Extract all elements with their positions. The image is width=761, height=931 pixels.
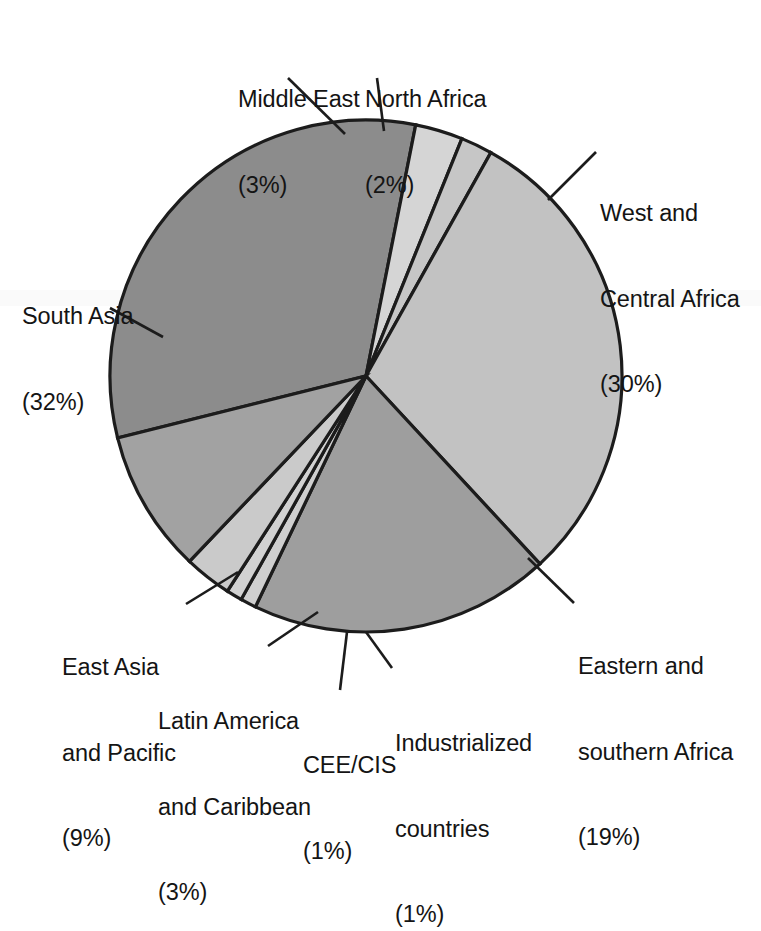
slice-label-text: Industrialized [395, 729, 532, 758]
slice-label-text: and Pacific [62, 739, 176, 768]
slice-label-text: Central Africa [600, 285, 740, 314]
slice-label-west-and-central-africa: West and Central Africa (30%) [600, 142, 740, 456]
slice-label-text: and Caribbean [158, 793, 311, 822]
slice-label-latin-america-and-caribbean: Latin America and Caribbean (3%) [158, 650, 311, 931]
slice-label-industrialized-countries: Industrialized countries (1%) [395, 672, 532, 931]
slice-label-text: South Asia [22, 302, 133, 331]
slice-label-text: Latin America [158, 707, 311, 736]
slice-label-north-africa: North Africa (2%) [365, 28, 487, 256]
slice-label-text: CEE/CIS [303, 751, 396, 780]
slice-label-value: (3%) [238, 171, 360, 200]
slice-label-value: (32%) [22, 388, 133, 417]
slice-label-value: (19%) [578, 823, 733, 852]
leader-line-west-central [548, 152, 596, 200]
leader-line-cee-cis [340, 632, 347, 690]
leader-line-eastern-southern [528, 558, 574, 603]
slice-label-value: (1%) [303, 837, 396, 866]
slice-label-middle-east: Middle East (3%) [238, 28, 360, 256]
slice-label-value: (3%) [158, 878, 311, 907]
slice-label-east-asia-and-pacific: East Asia and Pacific (9%) [62, 596, 176, 910]
slice-label-text: North Africa [365, 85, 487, 114]
slice-label-value: (30%) [600, 370, 740, 399]
slice-label-value: (2%) [365, 171, 487, 200]
slice-label-text: West and [600, 199, 740, 228]
slice-label-value: (1%) [395, 900, 532, 929]
slice-label-south-asia: South Asia (32%) [22, 245, 133, 473]
slice-label-text: East Asia [62, 653, 176, 682]
leader-line-industrialized [366, 632, 392, 668]
slice-label-eastern-and-southern-africa: Eastern and southern Africa (19%) [578, 595, 733, 909]
slice-label-text: Eastern and [578, 652, 733, 681]
slice-label-text: southern Africa [578, 738, 733, 767]
slice-label-value: (9%) [62, 824, 176, 853]
slice-label-text: Middle East [238, 85, 360, 114]
slice-label-text: countries [395, 815, 532, 844]
slice-label-cee-cis: CEE/CIS (1%) [303, 694, 396, 922]
